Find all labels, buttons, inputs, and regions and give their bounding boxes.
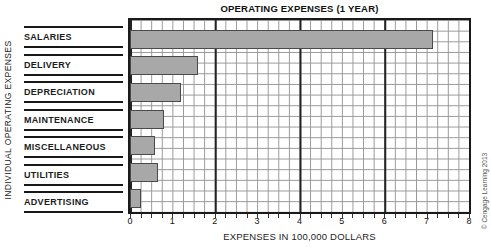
category-label: ADVERTISING	[24, 197, 89, 207]
category-label: UTILITIES	[24, 170, 69, 180]
bar-row	[130, 185, 469, 212]
bars	[130, 26, 469, 212]
category-labels: SALARIESDELIVERYDEPRECIATIONMAINTENANCEM…	[24, 26, 123, 213]
x-tick-label: 0	[127, 216, 132, 226]
bar-delivery	[130, 56, 198, 75]
category-label: MAINTENANCE	[24, 115, 94, 125]
bar-row	[130, 106, 469, 133]
category-label: DELIVERY	[24, 60, 71, 70]
bar-utilities	[130, 163, 158, 182]
bar-row	[130, 26, 469, 53]
copyright-notice: © Cengage Learning 2013	[481, 146, 489, 236]
category-label: MISCELLANEOUS	[24, 142, 106, 152]
x-tick-label: 2	[212, 216, 217, 226]
category-row-depreciation: DEPRECIATION	[24, 81, 123, 103]
bar-row	[130, 79, 469, 106]
bar-maintenance	[130, 110, 164, 129]
plot-area	[128, 18, 471, 214]
x-tick-label: 5	[339, 216, 344, 226]
chart-title: OPERATING EXPENSES (1 YEAR)	[128, 3, 471, 14]
x-tick-label: 1	[170, 216, 175, 226]
category-row-salaries: SALARIES	[24, 26, 123, 48]
bar-row	[130, 53, 469, 80]
x-tick-label: 6	[382, 216, 387, 226]
category-label: SALARIES	[24, 32, 72, 42]
category-row-miscellaneous: MISCELLANEOUS	[24, 136, 123, 158]
x-tick-label: 7	[424, 216, 429, 226]
x-tick-label: 8	[466, 216, 471, 226]
category-row-advertising: ADVERTISING	[24, 191, 123, 213]
bar-salaries	[130, 30, 433, 49]
x-tick-label: 4	[297, 216, 302, 226]
category-row-utilities: UTILITIES	[24, 164, 123, 186]
bar-miscellaneous	[130, 136, 155, 155]
bar-row	[130, 132, 469, 159]
bar-advertising	[130, 189, 141, 208]
operating-expenses-chart: OPERATING EXPENSES (1 YEAR) INDIVIDUAL O…	[0, 0, 491, 249]
category-row-maintenance: MAINTENANCE	[24, 109, 123, 131]
bar-row	[130, 159, 469, 186]
category-label: DEPRECIATION	[24, 87, 95, 97]
x-tick-labels: 012345678	[130, 216, 469, 227]
x-tick-label: 3	[255, 216, 260, 226]
category-row-delivery: DELIVERY	[24, 54, 123, 76]
x-axis-title: EXPENSES IN 100,000 DOLLARS	[128, 231, 471, 242]
bar-depreciation	[130, 83, 181, 102]
y-axis-label: INDIVIDUAL OPERATING EXPENSES	[3, 35, 15, 205]
